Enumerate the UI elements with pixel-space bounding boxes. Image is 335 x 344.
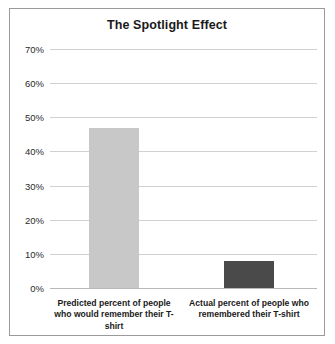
chart-title: The Spotlight Effect [10,18,324,32]
y-axis-tick-label: 30% [25,180,44,191]
y-axis-tick-label: 60% [25,78,44,89]
bar [89,128,139,288]
y-axis-tick-label: 10% [25,248,44,259]
gridline: 50% [50,117,317,118]
bar [224,261,274,288]
chart-frame: The Spotlight Effect 70%60%50%40%30%20%1… [9,8,325,336]
category-label: Actual percent of people who remembered … [185,298,313,321]
y-axis-tick-label: 70% [25,44,44,55]
plot-area: 70%60%50%40%30%20%10%0% Predicted percen… [50,49,317,288]
category-label: Predicted percent of people who would re… [50,298,178,332]
y-axis-tick-label: 0% [30,283,44,294]
y-axis-tick-label: 50% [25,112,44,123]
gridline: 0% [50,288,317,289]
y-axis-tick-label: 40% [25,146,44,157]
gridline: 60% [50,83,317,84]
gridline: 70% [50,49,317,50]
y-axis-tick-label: 20% [25,214,44,225]
